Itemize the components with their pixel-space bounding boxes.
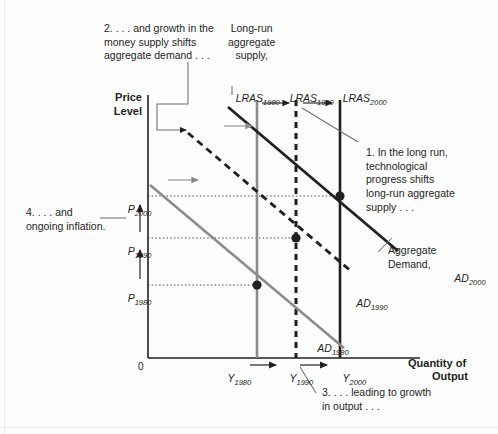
label-ad-1980-text: AD <box>317 342 332 354</box>
x-axis-title-line2: Output <box>408 369 468 383</box>
label-lras-1980: LRAS1980 <box>224 78 280 121</box>
annotation-lras-heading: Long-run aggregate supply, <box>228 22 275 63</box>
annotation-note-1: 1. In the long run, technological progre… <box>366 146 455 214</box>
tick-price-2000: P2000 <box>116 189 151 232</box>
tick-price-1980: P1980 <box>116 278 151 321</box>
equilibrium-dot-1980 <box>252 280 261 289</box>
y-axis-title-line2: Level <box>106 104 142 118</box>
tick-output-1990-text: Y <box>289 372 296 384</box>
tick-output-1980: Y1980 <box>216 358 251 401</box>
annotation-ad-legend: Aggregate Demand, <box>388 244 436 271</box>
label-ad-1990-sub: 1990 <box>371 303 388 312</box>
equilibrium-dot-2000 <box>335 191 344 200</box>
tick-price-2000-text: P <box>128 203 135 215</box>
label-lras-2000-sub: 2000 <box>370 98 387 107</box>
figure-canvas: 2. . . . and growth in the money supply … <box>0 0 498 434</box>
tick-price-1990: P1990 <box>116 231 151 274</box>
annotation-note-4: 4. . . . and ongoing inflation. <box>26 206 105 233</box>
tick-price-1980-text: P <box>128 292 135 304</box>
annotation-note-3: 3. . . . leading to growth in output . .… <box>322 386 431 413</box>
price-guide-lines <box>148 196 341 285</box>
tick-price-2000-sub: 2000 <box>135 209 152 218</box>
tick-price-1990-text: P <box>128 245 135 257</box>
label-lras-1980-text: LRAS <box>236 92 263 104</box>
tick-output-1990-sub: 1990 <box>297 378 314 387</box>
origin-label: 0 <box>138 360 144 373</box>
y-axis-title-line1: Price <box>106 90 142 104</box>
annotation-note-2: 2. . . . and growth in the money supply … <box>104 22 214 63</box>
label-lras-2000: LRAS2000 <box>331 78 387 121</box>
tick-price-1990-sub: 1990 <box>135 251 152 260</box>
label-ad-1980-sub: 1980 <box>332 348 349 357</box>
label-ad-2000-text: AD <box>454 272 469 284</box>
label-lras-2000-text: LRAS <box>343 92 370 104</box>
label-ad-2000-sub: 2000 <box>469 278 486 287</box>
label-ad-2000: AD2000 <box>443 258 486 301</box>
label-ad-1990-text: AD <box>356 297 371 309</box>
tick-output-1980-sub: 1980 <box>235 378 252 387</box>
curve-ad-1990 <box>188 133 352 272</box>
label-lras-1990: LRAS1990 <box>278 78 334 121</box>
curve-ad-1980 <box>150 185 344 348</box>
tick-output-1980-text: Y <box>227 372 234 384</box>
tick-output-1990: Y1990 <box>278 358 313 401</box>
label-ad-1990: AD1990 <box>345 283 388 326</box>
tick-price-1980-sub: 1980 <box>135 298 152 307</box>
equilibrium-dot-1990 <box>291 233 300 242</box>
label-lras-1990-text: LRAS <box>290 92 317 104</box>
tick-output-2000-text: Y <box>342 372 349 384</box>
